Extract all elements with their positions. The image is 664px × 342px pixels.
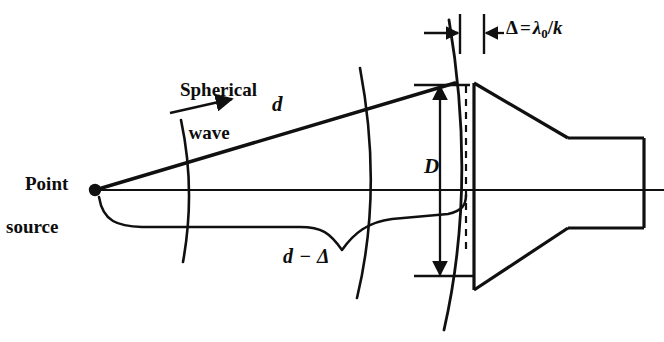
horn-antenna-lower-flare bbox=[474, 228, 568, 290]
spherical-wave-label-line1: Spherical bbox=[180, 79, 257, 100]
aperture-diameter-label: D bbox=[424, 155, 439, 179]
delta-equals-sign: = bbox=[518, 17, 533, 38]
ray-distance-label: d bbox=[272, 93, 283, 117]
lambda-symbol: λ bbox=[533, 17, 541, 38]
wavefront-arc-3 bbox=[444, 20, 462, 330]
diagram-svg bbox=[0, 0, 664, 342]
delta-symbol: Δ bbox=[506, 17, 518, 38]
path-brace-d-minus-delta bbox=[99, 195, 466, 250]
point-source-label-line2: source bbox=[6, 216, 94, 237]
axis-distance-label: d − Δ bbox=[283, 245, 330, 267]
wavefront-arc-2 bbox=[357, 68, 371, 298]
point-source-label: Point source bbox=[6, 152, 94, 280]
k-symbol: k bbox=[553, 17, 563, 38]
horn-antenna-upper-flare bbox=[474, 83, 568, 138]
spherical-wave-label-line2: wave bbox=[150, 122, 268, 143]
point-source-label-line1: Point bbox=[25, 173, 68, 194]
figure-canvas: Spherical wave Point source d d − Δ D Δ=… bbox=[0, 0, 664, 342]
delta-equation-label: Δ=λ0/k bbox=[506, 17, 562, 41]
spherical-wave-label: Spherical wave bbox=[150, 58, 268, 186]
